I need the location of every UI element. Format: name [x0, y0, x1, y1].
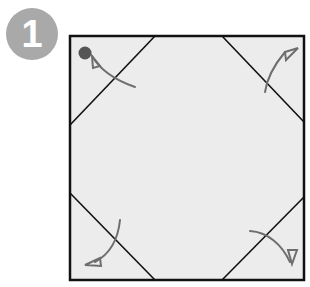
- origami-diagram: [0, 0, 310, 287]
- paper-square: [70, 36, 304, 280]
- reference-dot-icon: [79, 47, 92, 60]
